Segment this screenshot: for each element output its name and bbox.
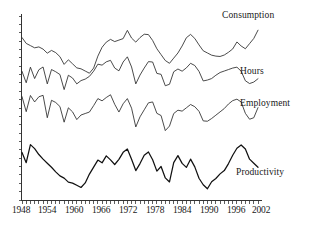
x-axis-tick-label: 1978 <box>146 205 164 215</box>
chart-plot-area <box>0 0 316 226</box>
series-lines <box>22 30 258 189</box>
x-axis-tick-label: 1966 <box>92 205 110 215</box>
x-axis-tick-label: 1984 <box>173 205 191 215</box>
x-axis-tick-label: 1996 <box>227 205 245 215</box>
x-axis-tick-label: 1960 <box>65 205 83 215</box>
series-label-hours: Hours <box>240 66 264 76</box>
x-axis-tick-label: 1948 <box>12 205 30 215</box>
x-axis-tick-label: 2002 <box>252 205 270 215</box>
series-label-consumption: Consumption <box>222 10 274 20</box>
x-axis-tick-label: 1954 <box>38 205 56 215</box>
axes <box>19 14 262 204</box>
series-line-hours <box>22 57 258 90</box>
chart-figure: Consumption Hours Employment Productivit… <box>0 0 316 226</box>
x-axis-tick-labels: 1948195419601966197219781984199019962002 <box>0 205 316 221</box>
series-label-productivity: Productivity <box>236 167 284 177</box>
series-line-consumption <box>22 30 258 73</box>
series-line-employment <box>22 95 258 131</box>
x-axis-ticks <box>22 201 258 205</box>
x-axis-tick-label: 1990 <box>200 205 218 215</box>
series-line-productivity <box>22 145 258 189</box>
x-axis-tick-label: 1972 <box>119 205 137 215</box>
series-label-employment: Employment <box>240 98 290 108</box>
